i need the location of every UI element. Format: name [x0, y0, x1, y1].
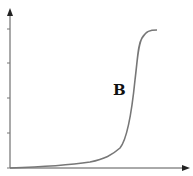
y-axis — [7, 12, 10, 168]
curve-label: B — [113, 81, 126, 99]
sigmoid-chart: B — [0, 0, 193, 176]
curve-b — [10, 30, 157, 168]
